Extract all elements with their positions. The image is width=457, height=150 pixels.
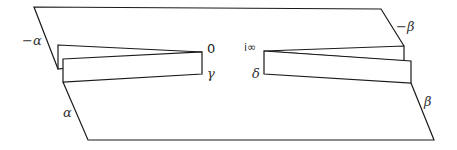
label-beta: β bbox=[423, 94, 432, 109]
label-minus-alpha: −α bbox=[22, 33, 42, 48]
label-alpha: α bbox=[63, 105, 72, 120]
label-delta: δ bbox=[252, 66, 260, 81]
diagram-canvas: −α α −β β 0 γ i∞ δ bbox=[0, 0, 457, 150]
label-gamma: γ bbox=[207, 66, 215, 81]
label-zero: 0 bbox=[207, 41, 215, 56]
label-i-infinity: i∞ bbox=[244, 41, 256, 54]
outer-bottom-edge bbox=[63, 82, 434, 140]
label-minus-beta: −β bbox=[396, 19, 414, 34]
